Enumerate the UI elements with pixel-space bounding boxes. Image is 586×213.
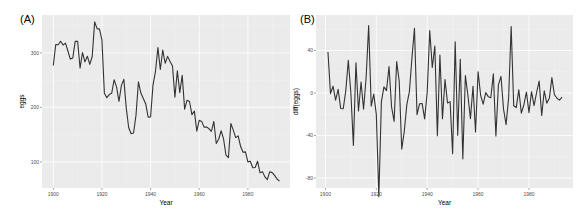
x-tick-label: 1940	[145, 191, 156, 197]
x-tick-label: 1980	[242, 191, 253, 197]
x-tick-label: 1960	[194, 191, 205, 197]
panel-b-x-axis-title: Year	[438, 199, 452, 206]
x-tick-label: 1920	[96, 191, 107, 197]
y-tick-label: 40	[307, 47, 313, 53]
panel-b-y-axis: -80-40040	[306, 47, 316, 181]
x-tick-label: 1900	[320, 191, 331, 197]
panel-a-tag: (A)	[20, 13, 35, 25]
y-tick-label: 200	[31, 104, 40, 110]
panel-a: 19001920194019601980 100200300 Year eggs…	[18, 13, 290, 206]
x-tick-label: 1900	[48, 191, 59, 197]
y-tick-label: 100	[31, 159, 40, 165]
panel-b-x-axis: 19001920194019601980	[320, 188, 535, 197]
panel-b-tag: (B)	[300, 13, 315, 25]
panel-b: 19001920194019601980 -80-40040 Year diff…	[292, 13, 573, 206]
chart-figure: 19001920194019601980 100200300 Year eggs…	[0, 0, 586, 213]
y-tick-label: -80	[306, 175, 313, 181]
y-tick-label: 300	[31, 50, 40, 56]
x-tick-label: 1960	[473, 191, 484, 197]
panel-a-x-axis-title: Year	[159, 199, 173, 206]
x-tick-label: 1940	[422, 191, 433, 197]
y-tick-label: -40	[306, 132, 313, 138]
panel-b-y-axis-title: diff(eggs)	[292, 88, 300, 115]
panel-a-y-axis: 100200300	[31, 50, 42, 165]
y-tick-label: 0	[310, 90, 313, 96]
panel-a-x-axis: 19001920194019601980	[48, 188, 254, 197]
panel-a-y-axis-title: eggs	[18, 94, 26, 109]
x-tick-label: 1980	[523, 191, 534, 197]
x-tick-label: 1920	[371, 191, 382, 197]
